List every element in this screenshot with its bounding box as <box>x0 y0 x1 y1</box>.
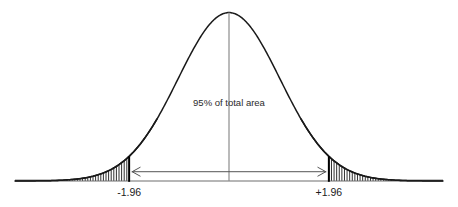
normal-distribution-figure: 95% of total area -1.96 +1.96 <box>0 0 458 207</box>
right-tail-hatch-region <box>329 8 441 182</box>
left-critical-value-label: -1.96 <box>117 186 141 198</box>
area-percentage-label: 95% of total area <box>193 97 266 108</box>
left-tail-hatch-region <box>15 8 127 182</box>
distribution-chart: 95% of total area -1.96 +1.96 <box>0 0 458 207</box>
right-critical-value-label: +1.96 <box>316 186 343 198</box>
